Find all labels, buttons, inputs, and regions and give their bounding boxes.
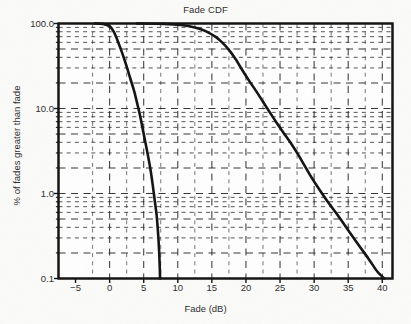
plot-canvas (0, 0, 411, 324)
chart-figure: Fade CDF % of fades greater than fade Fa… (0, 0, 411, 324)
plot-background (59, 24, 393, 279)
